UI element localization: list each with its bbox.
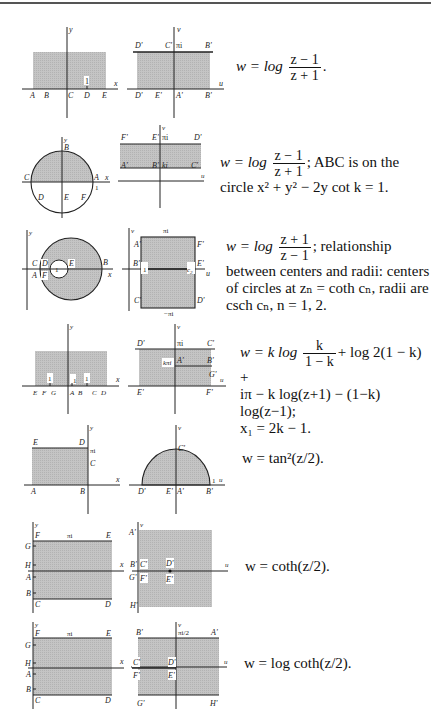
svg-text:C: C <box>90 459 96 468</box>
svg-text:E': E' <box>167 671 175 680</box>
formula-6: w = coth(z/2). <box>245 558 330 575</box>
svg-text:B': B' <box>207 356 214 365</box>
figure-6-w-plane: v A' B' C' D' G' F' E' H' u <box>128 521 229 613</box>
svg-text:1: 1 <box>85 77 89 86</box>
svg-text:x: x <box>115 375 120 384</box>
svg-text:E': E' <box>165 487 173 496</box>
svg-text:F': F' <box>196 240 204 249</box>
svg-text:D: D <box>83 91 90 100</box>
formula-4-line2: iπ − k log(z+1) − (1−k) log(z−1); <box>240 386 380 419</box>
figure-7-w-plane: v B' πi/2 A' C' D' F' E' G' H' u <box>131 621 228 709</box>
svg-text:v: v <box>177 25 181 34</box>
svg-text:D: D <box>104 600 111 609</box>
svg-text:A: A <box>31 271 37 280</box>
svg-text:G: G <box>51 389 56 397</box>
svg-text:D: D <box>41 259 48 268</box>
svg-text:u: u <box>220 376 224 384</box>
svg-text:πi: πi <box>163 227 169 235</box>
formula-3-line2: between centers and radii: centers <box>226 263 429 279</box>
svg-text:D': D' <box>134 91 143 100</box>
svg-text:u: u <box>219 476 223 484</box>
svg-text:E': E' <box>154 91 162 100</box>
formula-3-numerator: z + 1 <box>279 232 311 248</box>
svg-text:C': C' <box>178 444 185 453</box>
svg-text:D: D <box>104 696 111 705</box>
figure-4-z-plane: y x 1 1 1 E F G A B C D <box>22 323 120 414</box>
svg-text:D: D <box>100 389 106 397</box>
svg-text:H': H' <box>129 601 138 610</box>
svg-text:u: u <box>224 658 228 666</box>
svg-text:F: F <box>41 389 47 397</box>
figure-5-z-plane: y E D πi C x A B <box>24 424 120 514</box>
svg-text:D': D' <box>137 487 146 496</box>
svg-text:v: v <box>178 424 182 432</box>
svg-text:y: y <box>69 323 74 331</box>
formula-7-text: w = log coth(z/2). <box>244 655 352 671</box>
svg-text:A: A <box>29 91 35 100</box>
svg-text:y: y <box>34 521 39 529</box>
figure-5-w-plane: v C' 1 u D' E' A' B' <box>129 424 225 514</box>
svg-text:y: y <box>28 229 33 237</box>
formula-1-denominator: z + 1 <box>289 68 321 83</box>
svg-text:C': C' <box>134 296 141 305</box>
svg-text:C: C <box>24 173 30 182</box>
figure-1-w-plane: v u D' C' πi B' D' E' A' B' <box>127 25 224 118</box>
svg-text:πi: πi <box>67 532 73 540</box>
figure-7-z-plane: y F πi E G H A B C D x <box>24 621 124 709</box>
svg-text:A: A <box>25 670 31 679</box>
svg-text:C': C' <box>207 339 214 348</box>
svg-text:F': F' <box>205 388 213 397</box>
svg-text:G: G <box>25 641 31 650</box>
svg-text:u: u <box>206 269 210 278</box>
svg-text:1: 1 <box>48 375 52 383</box>
svg-text:ki: ki <box>162 161 168 170</box>
formula-3-line3: of circles at zₙ = coth cₙ, radii are <box>226 280 429 296</box>
formula-2-lhs: w = log <box>220 154 267 170</box>
svg-text:C': C' <box>191 161 198 170</box>
svg-text:E': E' <box>165 575 173 584</box>
formula-3-lhs: w = log <box>226 238 273 254</box>
formula-3-tail: ; relationship <box>313 238 392 254</box>
svg-text:1: 1 <box>55 266 59 274</box>
svg-text:πi: πi <box>67 630 73 638</box>
figure-1-z-plane: 1 y x A B C D E <box>22 25 118 118</box>
svg-text:B: B <box>26 589 31 598</box>
svg-text:1: 1 <box>85 375 89 383</box>
svg-text:A: A <box>93 173 99 182</box>
formula-2-denominator: z + 1 <box>273 164 305 179</box>
svg-text:E: E <box>32 438 38 447</box>
svg-text:x: x <box>104 173 109 182</box>
svg-text:x: x <box>119 560 124 569</box>
svg-text:u: u <box>201 172 205 180</box>
svg-text:C: C <box>32 259 38 268</box>
svg-text:D: D <box>37 193 44 202</box>
figure-4-w-plane: v D' πi C' kπi A' B' G' u E' F' <box>128 323 226 414</box>
svg-text:C': C' <box>133 658 140 667</box>
svg-text:C: C <box>35 600 41 609</box>
formula-7: w = log coth(z/2). <box>244 655 352 672</box>
svg-text:B: B <box>44 91 49 100</box>
figure-3-z-plane: y C A D F 1 E B x <box>22 229 113 310</box>
svg-text:1: 1 <box>212 477 216 485</box>
svg-text:E: E <box>63 193 69 202</box>
svg-text:C': C' <box>165 41 172 50</box>
svg-text:−πi: −πi <box>164 310 173 318</box>
svg-text:x: x <box>115 475 120 484</box>
svg-text:πi: πi <box>90 447 96 455</box>
svg-text:A': A' <box>128 528 136 537</box>
svg-text:u: u <box>225 561 229 569</box>
formula-5: w = tan²(z/2). <box>242 450 324 467</box>
svg-text:F: F <box>34 629 40 638</box>
formula-2-line2: circle x² + y² − 2y cot k = 1. <box>220 179 389 195</box>
svg-text:E': E' <box>196 259 204 268</box>
svg-text:1: 1 <box>73 377 77 385</box>
svg-text:y: y <box>68 25 73 34</box>
formula-4-fraction: k 1 − k <box>303 338 336 369</box>
svg-text:E: E <box>105 531 111 540</box>
svg-text:G': G' <box>137 699 145 708</box>
svg-text:F': F' <box>120 133 128 142</box>
svg-text:E': E' <box>136 388 144 397</box>
svg-text:B: B <box>80 487 85 496</box>
svg-text:πi: πi <box>177 339 184 348</box>
svg-text:y: y <box>89 424 94 432</box>
